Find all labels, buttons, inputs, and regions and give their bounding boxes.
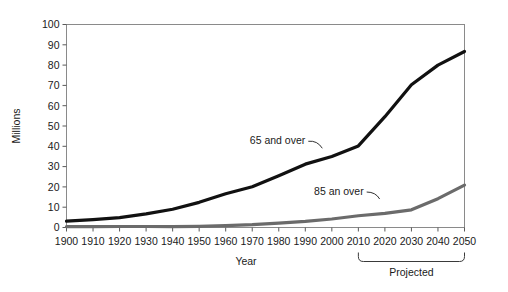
chart-svg: 0102030405060708090100 19001910192019301… (0, 0, 508, 292)
x-tick-label: 1970 (241, 235, 265, 247)
y-tick-label: 10 (48, 201, 60, 213)
y-tick-label: 80 (48, 59, 60, 71)
x-tick-label: 1900 (55, 235, 79, 247)
y-tick-label: 20 (48, 181, 60, 193)
x-tick-label: 2000 (320, 235, 344, 247)
y-tick-label: 100 (42, 18, 60, 30)
y-axis-title: Millions (10, 108, 22, 143)
x-tick-label: 1960 (214, 235, 238, 247)
x-tick-label: 2010 (347, 235, 371, 247)
x-tick-label: 1940 (161, 235, 185, 247)
x-tick-label: 1990 (294, 235, 318, 247)
y-tick-label: 50 (48, 120, 60, 132)
y-tick-label: 40 (48, 140, 60, 152)
x-tick-label: 1910 (81, 235, 105, 247)
y-tick-label: 60 (48, 100, 60, 112)
annotation-65-and-over: 65 and over (250, 134, 306, 146)
x-tick-label: 1920 (108, 235, 132, 247)
y-tick-label: 70 (48, 79, 60, 91)
y-tick-label: 30 (48, 160, 60, 172)
x-tick-label: 2040 (426, 235, 450, 247)
x-axis-title: Year (235, 255, 257, 267)
x-tick-label: 2020 (373, 235, 397, 247)
annotation-85-an-over: 85 an over (314, 185, 364, 197)
x-tick-label: 1930 (134, 235, 158, 247)
x-tick-label: 1980 (267, 235, 291, 247)
projected-bracket-path (358, 253, 464, 262)
projected-bracket: Projected (358, 253, 464, 278)
projected-bracket-label: Projected (389, 266, 434, 278)
x-tick-label: 1950 (187, 235, 211, 247)
series-line-85-an-over (67, 185, 465, 227)
y-tick-label: 0 (54, 221, 60, 233)
x-tick-label: 2030 (400, 235, 424, 247)
x-tick-label: 2050 (453, 235, 477, 247)
leader-line-65-and-over (308, 141, 322, 148)
leader-line-85-an-over (367, 192, 380, 199)
plot-frame (67, 25, 465, 228)
y-tick-label: 90 (48, 39, 60, 51)
x-axis: 1900191019201930194019501960197019801990… (55, 228, 477, 247)
y-axis: 0102030405060708090100 (42, 18, 67, 233)
chart-container: 0102030405060708090100 19001910192019301… (0, 0, 508, 292)
